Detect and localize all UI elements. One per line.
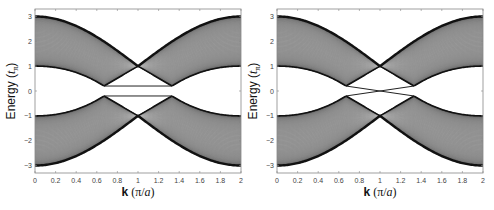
y-tick-label: 0: [270, 88, 274, 95]
x-tick-label: 1.8: [458, 177, 468, 184]
y-tick-label: 2: [28, 38, 32, 45]
x-tick-label: 1.8: [216, 177, 226, 184]
y-tick-label: −1: [24, 112, 32, 119]
plot-area: [277, 16, 483, 165]
y-axis-label: Energy (tπ): [246, 63, 262, 120]
x-tick-label: 1: [136, 177, 140, 184]
right-panel: 00.20.40.60.811.21.41.61.82−3−2−10123k (…: [242, 0, 489, 210]
x-tick-label: 0.2: [293, 177, 303, 184]
x-tick-label: 0.8: [113, 177, 123, 184]
y-tick-label: 1: [270, 63, 274, 70]
band-structure-plot-right: 00.20.40.60.811.21.41.61.82−3−2−10123k (…: [242, 0, 494, 210]
upper-bulk-band: [277, 16, 483, 85]
lower-bulk-band: [277, 96, 483, 165]
y-tick-label: 3: [28, 13, 32, 20]
lower-bulk-band: [35, 96, 241, 165]
x-tick-label: 1.2: [154, 177, 164, 184]
x-tick-label: 0.4: [313, 177, 323, 184]
y-tick-label: −3: [266, 162, 274, 169]
left-panel: 00.20.40.60.811.21.41.61.82−3−2−10123k (…: [0, 0, 247, 210]
y-tick-label: 1: [28, 63, 32, 70]
x-axis-label: k (π/a): [363, 185, 396, 199]
y-tick-label: −2: [24, 137, 32, 144]
y-tick-label: −3: [24, 162, 32, 169]
y-axis-label: Energy (tπ): [4, 63, 20, 120]
x-tick-label: 0.2: [51, 177, 61, 184]
y-tick-label: −1: [266, 112, 274, 119]
x-tick-label: 1.6: [437, 177, 447, 184]
plot-area: [35, 16, 241, 165]
x-tick-label: 1.2: [396, 177, 406, 184]
x-axis-label: k (π/a): [121, 185, 154, 199]
x-tick-label: 0: [275, 177, 279, 184]
x-tick-label: 0.6: [334, 177, 344, 184]
x-tick-label: 0.6: [92, 177, 102, 184]
band-structure-plot-left: 00.20.40.60.811.21.41.61.82−3−2−10123k (…: [0, 0, 247, 210]
x-tick-label: 1: [378, 177, 382, 184]
x-tick-label: 1.6: [195, 177, 205, 184]
y-tick-label: 3: [270, 13, 274, 20]
x-tick-label: 1.4: [416, 177, 426, 184]
y-tick-label: −2: [266, 137, 274, 144]
y-tick-label: 0: [28, 88, 32, 95]
x-tick-label: 1.4: [174, 177, 184, 184]
upper-bulk-band: [35, 16, 241, 85]
x-tick-label: 0.4: [71, 177, 81, 184]
y-tick-label: 2: [270, 38, 274, 45]
x-tick-label: 0.8: [355, 177, 365, 184]
x-tick-label: 2: [481, 177, 485, 184]
x-tick-label: 0: [33, 177, 37, 184]
